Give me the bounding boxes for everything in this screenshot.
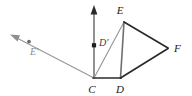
label-c: C [88,83,96,95]
label-d-prime: D' [98,37,109,48]
geometry-figure: E F C D D' E' [0,0,192,96]
label-e-prime: E' [29,46,39,57]
point-d-prime-dot [92,43,96,47]
label-d: D [115,83,124,95]
geometry-canvas: E F C D D' E' [0,0,192,96]
label-e: E [116,4,124,16]
point-e-prime-dot [27,40,31,44]
label-f: F [173,42,181,54]
